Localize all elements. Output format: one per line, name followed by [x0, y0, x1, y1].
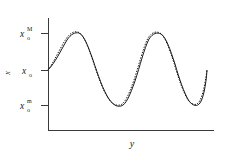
tick-bottom-subscript: o — [27, 107, 30, 113]
tick-bottom-base: x — [19, 101, 25, 111]
y-tick-label-top: x o M — [19, 26, 33, 41]
y-tick-label-bottom: x o m — [19, 98, 32, 113]
tick-mid-subscript: o — [29, 72, 32, 78]
figure-container: x x o M x o x o m y — [0, 0, 230, 154]
dotted-curve — [48, 32, 207, 105]
y-tick-label-middle: x o — [21, 66, 32, 78]
tick-mid-base: x — [21, 66, 27, 76]
tick-top-superscript: M — [27, 26, 33, 32]
tick-top-subscript: o — [27, 35, 30, 41]
y-axis-title: x — [3, 71, 12, 76]
plot-svg: x x o M x o x o m y — [0, 0, 230, 154]
tick-top-base: x — [19, 29, 25, 39]
x-axis-title: y — [129, 138, 135, 149]
tick-bottom-superscript: m — [27, 98, 32, 104]
